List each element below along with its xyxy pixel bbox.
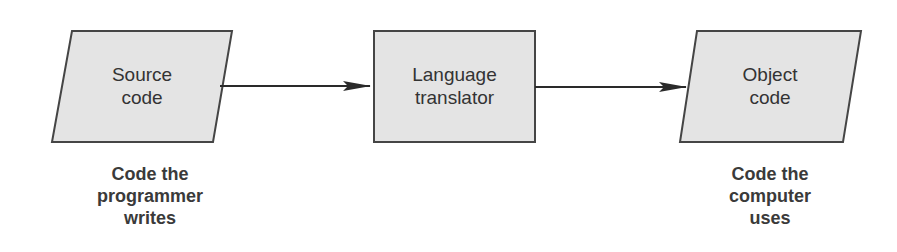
source-code-caption: Code the programmer writes <box>60 163 240 229</box>
object-code-label: Object code <box>690 63 850 109</box>
source-code-label: Source code <box>72 63 212 109</box>
language-translator-label: Language translator <box>374 63 535 109</box>
object-code-caption: Code the computer uses <box>685 163 855 229</box>
diagram-canvas: Source code Language translator Object c… <box>0 0 897 252</box>
